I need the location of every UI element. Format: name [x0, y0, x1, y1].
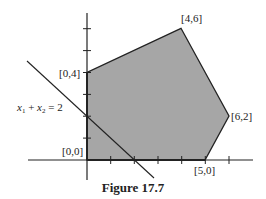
- vertex-label-6-2: [6,2]: [231, 110, 252, 122]
- constraint-equation-label: x1 + x2 = 2: [16, 101, 63, 115]
- vertex-label-0-4: [0,4]: [59, 67, 80, 79]
- vertex-label-4-6: [4,6]: [181, 12, 202, 24]
- vertex-label-0-0: [0,0]: [62, 145, 83, 157]
- feasible-region: [87, 28, 229, 160]
- vertex-label-5-0: [5,0]: [194, 164, 215, 176]
- figure-caption: Figure 17.7: [0, 180, 266, 196]
- feasible-region-diagram: [0,0] [0,4] [4,6] [6,2] [5,0] x1 + x2 = …: [0, 0, 266, 199]
